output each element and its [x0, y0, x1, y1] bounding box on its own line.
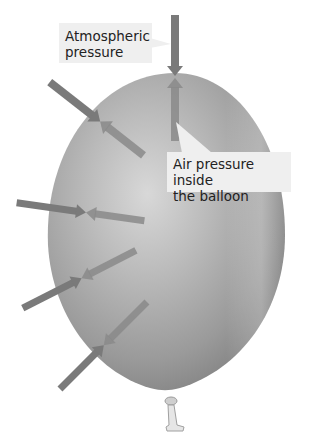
- outside-arrow-top: [167, 15, 183, 76]
- outside-arrow-bottom-left: [55, 340, 109, 394]
- inside-label-line-2: the balloon: [173, 188, 285, 204]
- inside-pressure-label: Air pressure inside the balloon: [167, 152, 291, 192]
- balloon-pressure-diagram: [0, 0, 315, 440]
- atmospheric-label-line-2: pressure: [65, 44, 146, 60]
- inside-label-line-1: Air pressure inside: [173, 156, 285, 188]
- balloon-knot: [165, 397, 184, 431]
- atmospheric-label-line-1: Atmospheric: [65, 28, 146, 44]
- atmospheric-pressure-label: Atmospheric pressure: [59, 23, 152, 63]
- atmospheric-callout-pointer: [150, 38, 171, 48]
- outside-arrow-upper-left: [45, 76, 105, 128]
- balloon-highlight: [48, 73, 285, 390]
